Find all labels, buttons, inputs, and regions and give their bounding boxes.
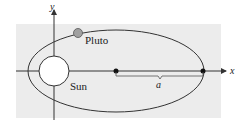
sun-label: Sun [70, 80, 88, 92]
semi-major-axis-label: a [156, 79, 161, 90]
pluto-label: Pluto [85, 34, 109, 46]
y-axis-label: y [49, 1, 55, 12]
sun-icon [39, 56, 69, 86]
x-axis-label: x [229, 65, 235, 76]
pluto-icon [74, 29, 83, 38]
orbit-diagram: y x Pluto Sun a [0, 0, 243, 127]
